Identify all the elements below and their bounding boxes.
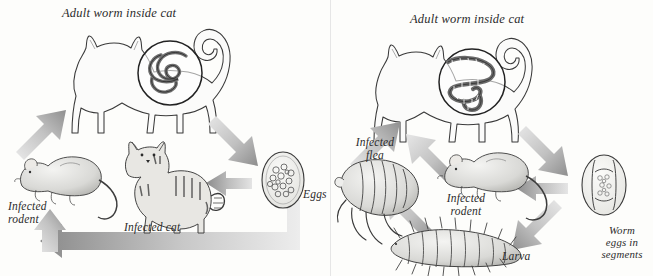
label-adult-worm-inside-cat: Adult worm inside cat xyxy=(410,12,524,26)
figure-canvas: Adult worm inside cat Infected rodent In… xyxy=(0,0,653,276)
arrow-cat-to-eggs xyxy=(208,116,258,166)
worm-eggs-in-segments-illustration xyxy=(582,155,626,215)
roundworm-cycle-artwork xyxy=(0,0,330,276)
label-infected-rodent: Infected rodent xyxy=(430,192,502,218)
arrow-eggs-to-cat xyxy=(206,171,252,196)
adult-tapeworm-magnifier xyxy=(439,49,505,115)
label-worm-eggs-in-segments: Worm eggs in segments xyxy=(592,224,652,260)
panel-roundworm-cycle: Adult worm inside cat Infected rodent In… xyxy=(0,0,330,276)
panel-tapeworm-cycle: Adult worm inside cat Infected flea Infe… xyxy=(330,0,653,276)
larva-illustration xyxy=(391,217,521,276)
infected-cat-illustration xyxy=(125,142,224,233)
arrow-rodent-to-cat xyxy=(16,110,66,160)
label-infected-rodent: Infected rodent xyxy=(8,200,47,226)
label-eggs: Eggs xyxy=(303,188,327,201)
infected-flea-illustration xyxy=(335,160,419,244)
adult-worm-magnifier xyxy=(138,41,202,105)
arrow-worm-eggs-to-larva xyxy=(512,200,562,250)
label-infected-cat: Infected cat xyxy=(124,221,180,234)
eggs-illustration xyxy=(262,152,304,208)
label-larva: Larva xyxy=(502,250,530,263)
label-infected-flea: Infected flea xyxy=(342,136,408,162)
label-adult-worm-inside-cat: Adult worm inside cat xyxy=(62,6,176,20)
